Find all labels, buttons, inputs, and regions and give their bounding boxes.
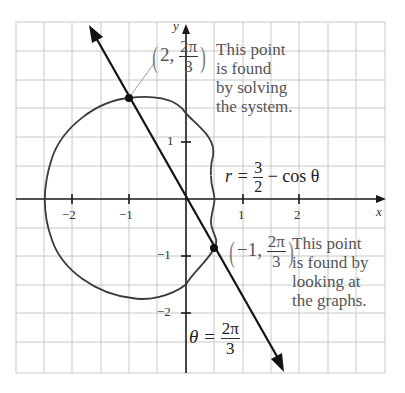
- x-axis-label: x: [376, 204, 382, 220]
- y-axis-arrow-icon: [182, 24, 190, 34]
- line-equation: θ = 2π3: [189, 320, 240, 357]
- y-tick-label: 1: [167, 133, 174, 149]
- point-2-note: This point is found by looking at the gr…: [292, 234, 369, 310]
- curve-equation: r = 32 − cos θ: [225, 160, 319, 195]
- point-1-note: This point is found by solving the syste…: [216, 40, 293, 116]
- fraction: 2π3: [267, 233, 286, 270]
- y-tick-label: −2: [157, 304, 171, 320]
- fraction: 2π3: [179, 38, 198, 75]
- x-tick-label: −2: [62, 207, 76, 223]
- polar-curve: [45, 97, 216, 299]
- point-2-label: (−1, 2π3): [227, 233, 296, 270]
- line-arrow-bottom-icon: [271, 353, 284, 372]
- x-tick-label: −1: [119, 207, 133, 223]
- x-tick-label: 1: [238, 207, 245, 223]
- point-1-label: (2, 2π3): [150, 38, 208, 75]
- intersection-point-2: [210, 244, 218, 252]
- fraction: 32: [253, 160, 263, 195]
- intersection-point-1: [125, 94, 133, 102]
- fraction: 2π3: [221, 320, 240, 357]
- polar-graph-figure: −2 −1 1 2 1 −1 −2 x y (2, 2π3) This poin…: [0, 0, 405, 393]
- y-tick-label: −1: [157, 247, 171, 263]
- x-tick-label: 2: [294, 207, 301, 223]
- y-axis-label: y: [173, 18, 179, 34]
